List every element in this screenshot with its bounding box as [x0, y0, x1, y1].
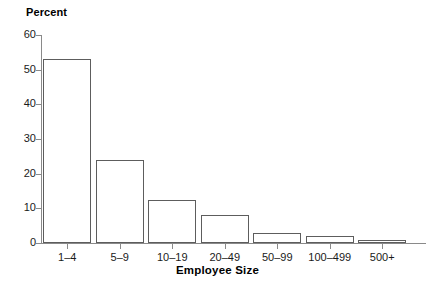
- x-axis-tick-label: 100–499: [308, 251, 351, 263]
- x-axis-tick-label: 10–19: [157, 251, 188, 263]
- y-axis-tick-label: 60: [2, 29, 36, 40]
- x-axis-tick: [67, 244, 68, 249]
- plot-area: [41, 35, 426, 243]
- y-axis-tick-labels: 0102030405060: [0, 0, 36, 291]
- x-axis-tick-label: 50–99: [262, 251, 293, 263]
- x-axis-tick: [382, 244, 383, 249]
- x-axis-tick: [277, 244, 278, 249]
- x-axis-line: [41, 243, 426, 244]
- x-axis-tick-label: 20–49: [209, 251, 240, 263]
- bar: [358, 240, 406, 243]
- y-axis-tick-label: 20: [2, 168, 36, 179]
- chart-container: Percent 0102030405060 1–45–910–1920–4950…: [0, 0, 435, 291]
- bar: [43, 59, 91, 243]
- bar: [253, 233, 301, 243]
- bar: [96, 160, 144, 243]
- bar: [306, 236, 354, 243]
- y-axis-tick-label: 10: [2, 202, 36, 213]
- y-axis-tick-label: 30: [2, 133, 36, 144]
- x-axis-tick: [120, 244, 121, 249]
- x-axis-tick: [172, 244, 173, 249]
- bar: [201, 215, 249, 243]
- y-axis-tick-label: 0: [2, 237, 36, 248]
- x-axis-title: Employee Size: [0, 264, 435, 276]
- bar: [148, 200, 196, 243]
- x-axis-tick: [225, 244, 226, 249]
- x-axis-tick: [330, 244, 331, 249]
- x-axis-tick-label: 500+: [370, 251, 395, 263]
- x-axis-tick-label: 1–4: [58, 251, 76, 263]
- y-axis-tick-label: 40: [2, 98, 36, 109]
- x-axis-tick-label: 5–9: [111, 251, 129, 263]
- y-axis-tick-label: 50: [2, 64, 36, 75]
